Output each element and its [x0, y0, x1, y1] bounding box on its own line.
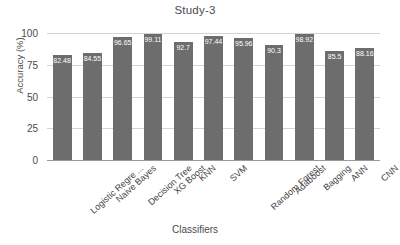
chart-title: Study-3	[0, 4, 390, 16]
bar: 98.92	[295, 34, 314, 160]
bar: 95.96	[234, 38, 253, 160]
y-axis-title: Accuracy (%)	[14, 6, 25, 126]
x-tick-label: Bagging	[322, 163, 353, 193]
bar: 90.3	[265, 45, 284, 160]
bar-value-label: 97.44	[205, 37, 223, 46]
y-tick-label: 0	[0, 155, 38, 166]
bar-value-label: 98.92	[296, 35, 314, 44]
bar-series: 82.4884.5596.6599.1192.797.4495.9690.398…	[47, 33, 380, 160]
bar-value-label: 88.16	[356, 49, 374, 58]
bar-value-label: 95.96	[235, 39, 253, 48]
bar: 85.5	[325, 51, 344, 160]
x-tick-label: CNN	[379, 163, 400, 183]
bar-value-label: 84.55	[84, 54, 102, 63]
bar: 99.11	[144, 34, 163, 160]
bar: 88.16	[355, 48, 374, 160]
bar: 92.7	[174, 42, 193, 160]
bar-value-label: 85.5	[328, 52, 342, 61]
x-axis-title: Classifiers	[0, 224, 390, 235]
x-tick-label: ANN	[348, 163, 369, 183]
bar: 84.55	[83, 53, 102, 160]
bar-value-label: 82.48	[53, 56, 71, 65]
x-axis-tick-labels: Logistic Regre ...Naive BayesDecision Tr…	[47, 161, 380, 223]
bar-value-label: 90.3	[267, 46, 281, 55]
bar-value-label: 99.11	[144, 35, 161, 44]
bar-value-label: 96.65	[114, 38, 132, 47]
bar: 96.65	[113, 37, 132, 160]
plot-area: 82.4884.5596.6599.1192.797.4495.9690.398…	[47, 33, 380, 160]
bar: 82.48	[53, 55, 72, 160]
bar-value-label: 92.7	[176, 43, 190, 52]
bar: 97.44	[204, 36, 223, 160]
x-tick-label: SVM	[228, 163, 249, 183]
